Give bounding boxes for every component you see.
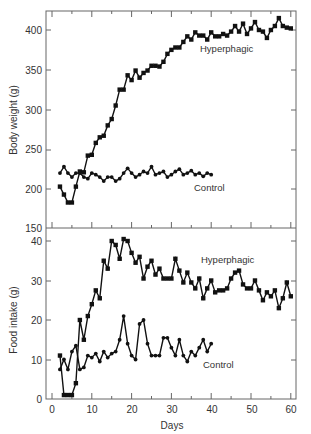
tick-30: 30: [31, 276, 43, 287]
tick-150: 150: [25, 223, 42, 234]
top-y-axis-label: Body weight (g): [8, 85, 19, 154]
top-hyperphagic-label: Hyperphagic: [200, 43, 254, 54]
bottom-y-ticks: 40 30 20 10 0: [31, 236, 43, 405]
tick-250: 250: [25, 144, 42, 155]
figure: 400 350 300 250 200 150 40 30 20 10 0 0 …: [0, 0, 311, 434]
tick-200: 200: [25, 184, 42, 195]
tick-x-20: 20: [126, 404, 138, 415]
bottom-control-label: Control: [203, 359, 234, 370]
x-axis-label: Days: [161, 420, 184, 431]
top-control-label: Control: [194, 182, 225, 193]
tick-0: 0: [36, 394, 42, 405]
tick-x-10: 10: [86, 404, 98, 415]
tick-x-50: 50: [246, 404, 258, 415]
data-series: [58, 16, 293, 397]
bottom-y-axis-label: Food intake (g): [8, 286, 19, 353]
tick-x-0: 0: [49, 404, 55, 415]
tick-x-30: 30: [166, 404, 178, 415]
tick-10: 10: [31, 355, 43, 366]
body-weight-control-series: [58, 165, 213, 183]
food-intake-hyperphagic-series: [58, 237, 293, 397]
tick-x-40: 40: [206, 404, 218, 415]
tick-40: 40: [31, 236, 43, 247]
food-intake-control-series: [58, 314, 213, 371]
top-y-ticks: 400 350 300 250 200 150: [25, 25, 42, 234]
tick-20: 20: [31, 315, 43, 326]
tick-400: 400: [25, 25, 42, 36]
bottom-hyperphagic-label: Hyperphagic: [201, 254, 255, 265]
x-ticks: 0 10 20 30 40 50 60: [49, 404, 297, 415]
body-weight-hyperphagic-series: [58, 16, 293, 205]
tick-350: 350: [25, 65, 42, 76]
tick-x-60: 60: [285, 404, 297, 415]
tick-300: 300: [25, 105, 42, 116]
